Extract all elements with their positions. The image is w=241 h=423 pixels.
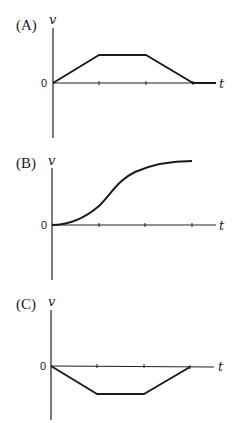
graph-b-label: (B) (16, 155, 36, 172)
graph-c-curve (51, 366, 190, 394)
graph-c-label: (C) (16, 296, 36, 313)
graph-b-v-label: v (48, 153, 56, 168)
graph-c-zero-label: 0 (40, 360, 46, 372)
graph-a-t-label: t (219, 76, 225, 91)
graph-b-t-label: t (219, 218, 225, 233)
velocity-time-graphs: (A) v 0 t (B) v 0 t (C) v 0 t (0, 0, 241, 423)
graph-c-v-label: v (48, 294, 56, 309)
graph-b-zero-label: 0 (41, 219, 47, 231)
graph-a-curve (53, 55, 216, 83)
graph-b-curve (52, 161, 192, 225)
graph-a-zero-label: 0 (41, 77, 47, 89)
graph-a-label: (A) (16, 17, 37, 34)
graph-c: (C) v 0 t (16, 294, 224, 420)
graph-a: (A) v 0 t (16, 12, 225, 138)
graph-a-v-label: v (49, 12, 57, 27)
graph-b: (B) v 0 t (16, 153, 225, 280)
graph-c-t-label: t (218, 359, 224, 374)
